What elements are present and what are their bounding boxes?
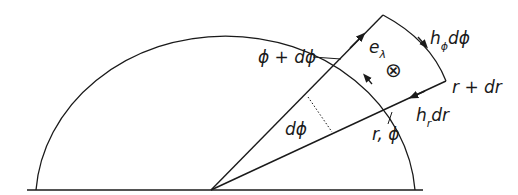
label-dphi: dϕ	[285, 119, 307, 139]
label-e-lambda: eλ	[369, 37, 386, 61]
into-page-icon: ⊗	[385, 58, 402, 82]
diagram-canvas: ϕ + dϕ eλ ⊗ hϕdϕ r + dr hrdr r, ϕ dϕ	[0, 0, 518, 195]
arrow-h-r-dr	[413, 91, 425, 97]
label-phi-plus-dphi: ϕ + dϕ	[258, 47, 316, 67]
arrow-up-radial	[350, 36, 362, 48]
label-r-phi: r, ϕ	[372, 124, 399, 144]
label-r-plus-dr: r + dr	[452, 77, 503, 97]
radial-line-phi	[211, 81, 446, 190]
boundary-arc	[36, 36, 415, 190]
label-h-r-dr: hrdr	[416, 105, 450, 130]
leader-phi-plus-dphi	[313, 57, 341, 59]
dphi-dotted-line	[308, 97, 332, 132]
label-h-phi-dphi: hϕdϕ	[430, 28, 470, 53]
arrow-inner-arc	[366, 77, 372, 84]
